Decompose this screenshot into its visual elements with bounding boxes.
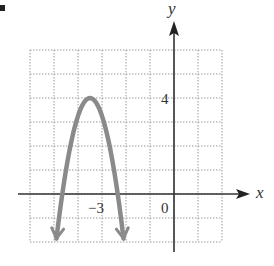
y-axis-label: y bbox=[166, 0, 176, 18]
tick-label-y-4: 4 bbox=[161, 91, 169, 107]
bullet-marker bbox=[0, 5, 5, 11]
curve-end-arrows bbox=[52, 228, 129, 239]
parabola-curve bbox=[56, 98, 123, 238]
x-axis-label: x bbox=[255, 183, 264, 202]
graph: y x −3 0 4 bbox=[0, 0, 274, 266]
tick-label-x-neg3: −3 bbox=[88, 200, 104, 216]
tick-label-origin: 0 bbox=[161, 200, 169, 216]
